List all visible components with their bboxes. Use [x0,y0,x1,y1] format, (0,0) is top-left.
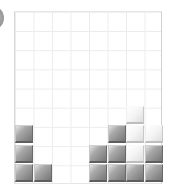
block-cell [145,164,163,182]
block-cell [126,125,144,143]
block-cell [108,164,126,182]
block-cell [15,125,33,143]
block-cell [126,145,144,163]
block-cell [145,145,163,163]
block-cell [108,145,126,163]
game-board[interactable] [14,11,162,184]
block-cell [126,164,144,182]
block-cell [108,125,126,143]
block-cell [34,164,52,182]
block-cell [89,145,107,163]
corner-indicator-icon [0,6,4,30]
block-cell [89,164,107,182]
block-cell [126,106,144,124]
block-cell [145,125,163,143]
block-cell [15,164,33,182]
block-cell [15,145,33,163]
